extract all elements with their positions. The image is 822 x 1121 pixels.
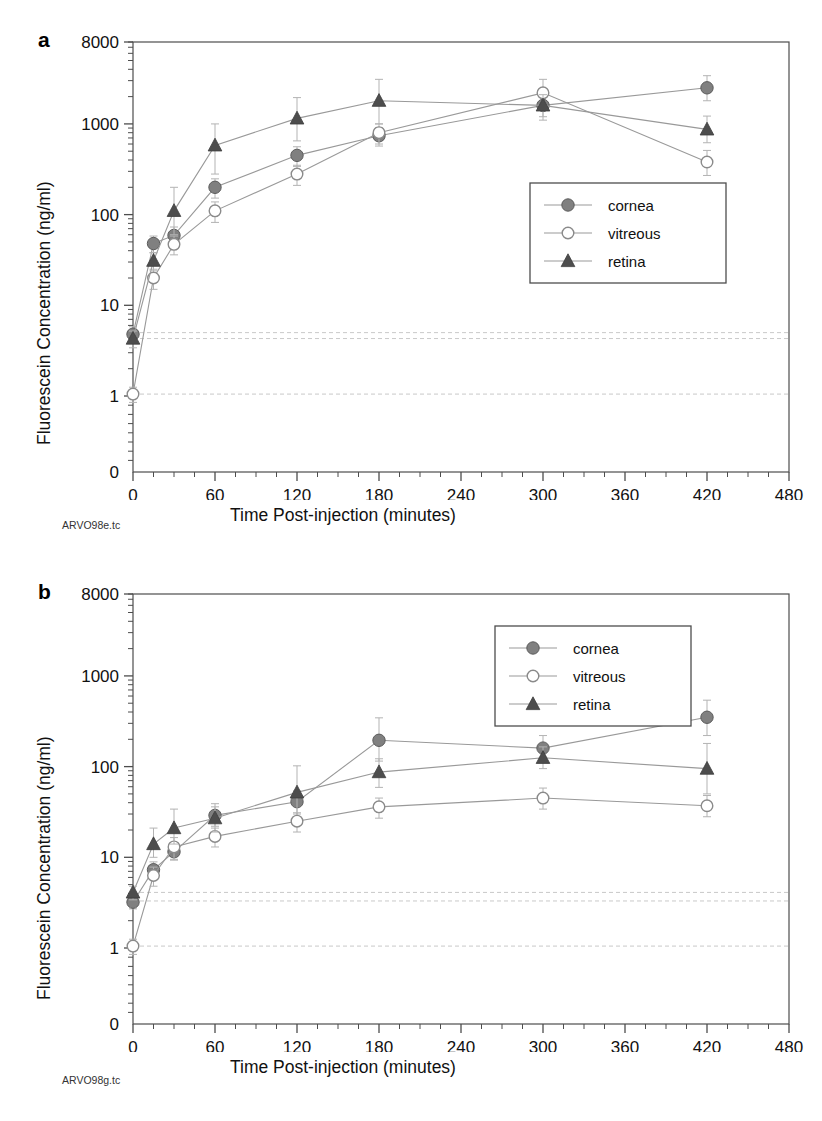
- x-tick-label: 0: [128, 1038, 137, 1052]
- data-point-retina-marker: [167, 204, 181, 217]
- data-point-vitreous-marker: [291, 815, 303, 827]
- data-point-retina-marker: [147, 837, 161, 850]
- y-tick-label: 1000: [81, 115, 119, 134]
- data-point-cornea-marker: [701, 711, 713, 723]
- data-point-vitreous-marker: [537, 792, 549, 804]
- x-tick-label: 120: [283, 1038, 311, 1052]
- x-tick-label: 180: [365, 1038, 393, 1052]
- legend-marker-cornea-marker: [562, 199, 574, 211]
- y-tick-label: 8000: [81, 33, 119, 52]
- legend: corneavitreousretina: [530, 183, 726, 283]
- y-tick-label: 1: [110, 939, 119, 958]
- x-tick-label: 60: [206, 1038, 225, 1052]
- legend-label-vitreous: vitreous: [608, 225, 661, 242]
- data-point-vitreous-marker: [291, 168, 303, 180]
- data-point-vitreous-marker: [168, 239, 180, 251]
- y-tick-label: 10: [100, 848, 119, 867]
- data-point-retina-marker: [147, 254, 161, 267]
- legend-label-cornea: cornea: [608, 197, 655, 214]
- x-tick-label: 360: [611, 1038, 639, 1052]
- data-point-cornea-marker: [291, 149, 303, 161]
- y-tick-label-zero: 0: [110, 1015, 119, 1034]
- chart-panel-a: a Fluorescein Concentration (ng/ml) Time…: [0, 0, 822, 552]
- data-point-vitreous-marker: [373, 127, 385, 139]
- legend-marker-vitreous-marker: [562, 227, 574, 239]
- data-point-vitreous-marker: [209, 205, 221, 217]
- x-tick-label: 180: [365, 486, 393, 500]
- data-point-vitreous-marker: [127, 388, 139, 400]
- y-tick-label: 1000: [81, 667, 119, 686]
- legend: corneavitreousretina: [495, 626, 691, 726]
- y-tick-label: 1: [110, 387, 119, 406]
- x-tick-label: 420: [693, 486, 721, 500]
- data-point-vitreous-marker: [373, 801, 385, 813]
- data-point-retina-marker: [372, 94, 386, 107]
- y-tick-label: 10: [100, 296, 119, 315]
- legend-label-cornea: cornea: [573, 640, 620, 657]
- data-point-cornea-marker: [147, 237, 159, 249]
- x-tick-label: 120: [283, 486, 311, 500]
- y-tick-label: 8000: [81, 585, 119, 604]
- x-tick-label: 0: [128, 486, 137, 500]
- data-point-cornea-marker: [373, 734, 385, 746]
- x-tick-label: 480: [775, 1038, 803, 1052]
- file-code-b: ARVO98g.tc: [62, 1074, 120, 1086]
- plot-area-b: 110100100080000060120180240300360420480c…: [0, 552, 822, 1052]
- data-point-vitreous-marker: [701, 156, 713, 168]
- data-point-vitreous-marker: [127, 940, 139, 952]
- x-tick-label: 240: [447, 1038, 475, 1052]
- legend-label-vitreous: vitreous: [573, 668, 626, 685]
- x-tick-label: 240: [447, 486, 475, 500]
- file-code-a: ARVO98e.tc: [62, 519, 120, 531]
- y-tick-label: 100: [91, 206, 119, 225]
- x-axis-title-a: Time Post-injection (minutes): [230, 505, 456, 526]
- data-point-vitreous-marker: [701, 800, 713, 812]
- series-line-retina: [133, 758, 707, 893]
- data-point-cornea-marker: [209, 181, 221, 193]
- legend-marker-cornea-marker: [527, 642, 539, 654]
- data-point-retina-marker: [208, 138, 222, 151]
- series-retina: [126, 743, 714, 899]
- x-tick-label: 420: [693, 1038, 721, 1052]
- plot-area-a: 110100100080000060120180240300360420480c…: [0, 0, 822, 500]
- x-tick-label: 60: [206, 486, 225, 500]
- data-point-cornea-marker: [701, 82, 713, 94]
- legend-label-retina: retina: [573, 696, 611, 713]
- x-tick-label: 480: [775, 486, 803, 500]
- y-tick-label: 100: [91, 758, 119, 777]
- legend-label-retina: retina: [608, 253, 646, 270]
- data-point-retina-marker: [126, 885, 140, 898]
- x-tick-label: 300: [529, 1038, 557, 1052]
- x-tick-label: 360: [611, 486, 639, 500]
- chart-panel-b: b Fluorescein Concentration (ng/ml) Time…: [0, 552, 822, 1121]
- series-line-cornea: [133, 717, 707, 902]
- legend-marker-vitreous-marker: [527, 670, 539, 682]
- x-tick-label: 300: [529, 486, 557, 500]
- y-tick-label-zero: 0: [110, 463, 119, 482]
- data-point-vitreous-marker: [148, 870, 160, 882]
- x-axis-title-b: Time Post-injection (minutes): [230, 1057, 456, 1078]
